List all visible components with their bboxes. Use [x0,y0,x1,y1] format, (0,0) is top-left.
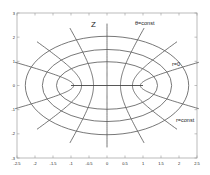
x-tick-label: 0.5 [122,161,128,166]
y-tick-label: -3 [11,156,15,161]
hyperbola-theta-const [120,86,144,143]
x-tick-label: 0 [106,161,109,166]
x-tick-label: 2 [178,161,181,166]
hyperbola-theta-const [70,28,94,85]
label-theta-const: θ=const [135,20,155,26]
hyperbola-theta-const [140,86,198,109]
x-tick-label: 1.5 [158,161,164,166]
label-r-const: r=const [176,117,195,123]
plot-canvas: -2.5-2-1.5-1-0.500.511.522.5 -3-2-10123 … [0,0,210,175]
y-tick-label: -2 [11,131,15,136]
hyperbola-theta-const [70,86,94,143]
hyperbola-theta-const [140,62,198,85]
label-r-zero: r=0 [172,61,180,67]
y-tick-label: 2 [13,35,16,40]
y-tick-label: 3 [13,11,16,16]
x-tick-label: -1.5 [50,161,58,166]
x-tick-label: 1 [142,161,145,166]
y-tick-label: 1 [13,59,16,64]
x-tick-label: -1 [69,161,73,166]
x-tick-label: 2.5 [194,161,200,166]
label-z: Z [91,20,96,29]
elliptic-coordinates-figure: -2.5-2-1.5-1-0.500.511.522.5 -3-2-10123 … [0,0,210,175]
x-tick-label: -0.5 [86,161,94,166]
x-tick-label: -2 [33,161,37,166]
hyperbola-theta-const [15,62,73,85]
y-tick-label: 0 [13,83,16,88]
hyperbola-theta-const [15,86,73,109]
x-tick-label: -2.5 [14,161,22,166]
y-tick-label: -1 [11,107,15,112]
hyperbola-theta-const [120,28,144,85]
